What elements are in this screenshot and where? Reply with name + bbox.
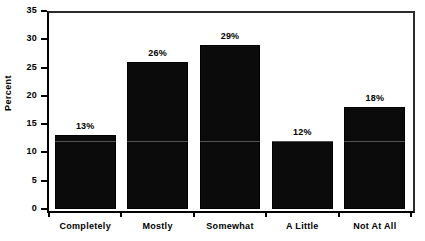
bar [200, 45, 261, 209]
x-axis-tick-mark [120, 211, 122, 217]
bar [127, 62, 188, 209]
x-axis-category-label: A Little [266, 221, 338, 231]
x-axis-tick-mark [265, 211, 267, 217]
y-axis-tick-label: 35 [27, 5, 37, 15]
plot-area: 13%26%29%12%18% [49, 11, 411, 209]
bar [344, 107, 405, 209]
y-axis-tick-label: 30 [27, 33, 37, 43]
y-axis-tick-label: 25 [27, 62, 37, 72]
bar [272, 141, 333, 209]
x-axis-tick-mark [48, 211, 50, 217]
bar-group: 18% [339, 11, 411, 209]
x-axis-tick-mark [338, 211, 340, 217]
bar-group: 13% [49, 11, 121, 209]
x-axis-category-label: Completely [49, 221, 121, 231]
bar [55, 135, 116, 209]
x-axis-category-label: Mostly [121, 221, 193, 231]
y-axis-title: Percent [3, 63, 13, 123]
bar-value-label: 29% [194, 31, 266, 41]
bar-group: 12% [266, 11, 338, 209]
x-axis-tick-mark [410, 211, 412, 217]
x-axis-tick-mark [193, 211, 195, 217]
bar-value-label: 12% [266, 127, 338, 137]
x-axis-category-label: Somewhat [194, 221, 266, 231]
y-axis-tick-label: 20 [27, 90, 37, 100]
bar-value-label: 13% [49, 121, 121, 131]
bar-group: 29% [194, 11, 266, 209]
y-axis-tick-label: 5 [32, 175, 37, 185]
y-axis-tick-label: 0 [32, 203, 37, 213]
bar-chart: Percent 05101520253035 13%26%29%12%18% C… [0, 0, 425, 241]
y-axis-tick-label: 10 [27, 146, 37, 156]
y-axis-tick-label: 15 [27, 118, 37, 128]
bar-value-label: 18% [339, 93, 411, 103]
bar-value-label: 26% [121, 48, 193, 58]
x-axis-category-label: Not At All [339, 221, 411, 231]
bar-group: 26% [121, 11, 193, 209]
